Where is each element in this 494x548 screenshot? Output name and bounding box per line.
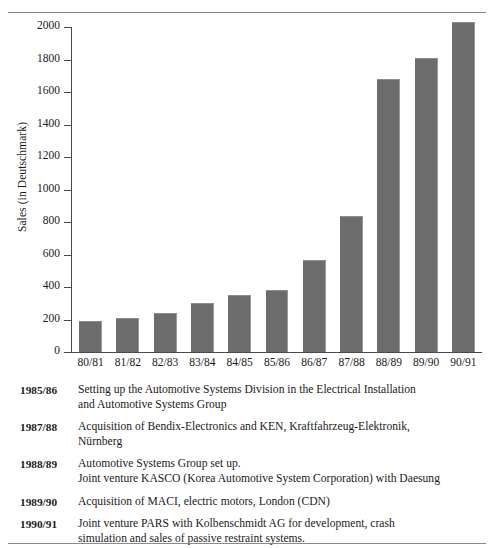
y-axis-tick-label: 400 — [43, 279, 60, 291]
milestone-row: 1989/90Acquisition of MACI, electric mot… — [0, 495, 494, 510]
y-axis-tick-label: 800 — [43, 214, 60, 226]
x-axis-tick-label: 83/84 — [184, 356, 221, 368]
milestone-row: 1987/88Acquisition of Bendix-Electronics… — [0, 420, 494, 449]
bar — [303, 260, 326, 352]
milestone-row: 1988/89Automotive Systems Group set up.J… — [0, 457, 494, 486]
bar-series — [72, 27, 482, 352]
milestone-text-line: Setting up the Automotive Systems Divisi… — [78, 383, 482, 398]
x-axis-tick-label: 80/81 — [72, 356, 109, 368]
bar — [415, 58, 438, 352]
y-axis-tick-label: 1000 — [37, 182, 60, 194]
x-axis-tick-label: 88/89 — [370, 356, 407, 368]
milestone-row: 1985/86Setting up the Automotive Systems… — [0, 383, 494, 412]
milestone-row: 1990/91Joint venture PARS with Kolbensch… — [0, 517, 494, 546]
y-axis-tick: 800 — [64, 222, 71, 223]
milestone-text: Joint venture PARS with Kolbenschmidt AG… — [78, 517, 494, 546]
milestones-list: 1985/86Setting up the Automotive Systems… — [0, 383, 494, 548]
y-axis-title: Sales (in Deutschmark) — [16, 62, 28, 292]
y-axis-tick: 0 — [64, 352, 71, 353]
milestone-text-line: Automotive Systems Group set up. — [78, 457, 482, 472]
milestone-text-line: Acquisition of Bendix-Electronics and KE… — [78, 420, 482, 435]
milestone-text: Acquisition of MACI, electric motors, Lo… — [78, 495, 494, 510]
milestone-text-line: Joint venture PARS with Kolbenschmidt AG… — [78, 517, 482, 532]
y-axis-tick: 1600 — [64, 92, 71, 93]
page-root: Sales (in Deutschmark) 02004006008001000… — [0, 0, 494, 548]
bar — [116, 318, 139, 352]
milestone-year: 1989/90 — [20, 495, 78, 510]
y-axis-tick-label: 1200 — [37, 149, 60, 161]
x-axis-tick-label: 86/87 — [296, 356, 333, 368]
y-axis-tick-label: 2000 — [37, 19, 60, 31]
milestone-text-line: Joint venture KASCO (Korea Automotive Sy… — [78, 472, 482, 487]
bar — [79, 321, 102, 352]
y-axis-tick: 1000 — [64, 190, 71, 191]
milestone-text-line: and Automotive Systems Group — [78, 398, 482, 413]
x-axis-line — [71, 352, 482, 353]
x-axis-tick-label: 84/85 — [221, 356, 258, 368]
milestone-year: 1985/86 — [20, 383, 78, 398]
bar — [266, 290, 289, 352]
milestone-text: Automotive Systems Group set up.Joint ve… — [78, 457, 494, 486]
milestone-year: 1990/91 — [20, 517, 78, 532]
top-divider — [8, 12, 486, 13]
y-axis-tick: 1400 — [64, 125, 71, 126]
bar — [340, 216, 363, 353]
plot-area: 0200400600800100012001400160018002000 — [71, 27, 482, 352]
milestone-text-line: Acquisition of MACI, electric motors, Lo… — [78, 495, 482, 510]
milestone-year: 1988/89 — [20, 457, 78, 472]
y-axis-tick-label: 1600 — [37, 84, 60, 96]
milestone-year: 1987/88 — [20, 420, 78, 435]
bottom-divider — [8, 543, 486, 544]
y-axis-tick: 600 — [64, 255, 71, 256]
bar — [191, 303, 214, 352]
y-axis-tick-label: 600 — [43, 247, 60, 259]
x-axis-labels: 80/8181/8282/8383/8484/8585/8686/8787/88… — [72, 356, 482, 374]
y-axis-tick: 200 — [64, 320, 71, 321]
x-axis-tick-label: 82/83 — [147, 356, 184, 368]
x-axis-tick-label: 85/86 — [258, 356, 295, 368]
x-axis-tick-label: 90/91 — [445, 356, 482, 368]
bar — [452, 22, 475, 352]
y-axis-tick-label: 1400 — [37, 117, 60, 129]
y-axis-tick-label: 200 — [43, 312, 60, 324]
milestone-text-line: simulation and sales of passive restrain… — [78, 532, 482, 547]
bar-chart: Sales (in Deutschmark) 02004006008001000… — [0, 16, 494, 378]
y-axis-tick: 400 — [64, 287, 71, 288]
y-axis-tick: 2000 — [64, 27, 71, 28]
y-axis-tick: 1800 — [64, 60, 71, 61]
milestone-text-line: Nürnberg — [78, 435, 482, 450]
x-axis-tick-label: 89/90 — [407, 356, 444, 368]
x-axis-tick-label: 87/88 — [333, 356, 370, 368]
milestone-text: Setting up the Automotive Systems Divisi… — [78, 383, 494, 412]
bar — [377, 79, 400, 352]
y-axis-tick: 1200 — [64, 157, 71, 158]
bar — [154, 313, 177, 352]
milestone-text: Acquisition of Bendix-Electronics and KE… — [78, 420, 494, 449]
x-axis-tick-label: 81/82 — [109, 356, 146, 368]
y-axis-tick-label: 1800 — [37, 52, 60, 64]
bar — [228, 295, 251, 352]
y-axis-tick-label: 0 — [54, 344, 60, 356]
